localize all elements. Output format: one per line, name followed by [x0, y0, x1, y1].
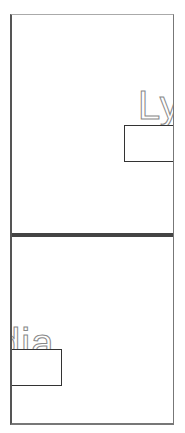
outer-frame: Ly dia — [10, 14, 174, 425]
bottom-panel: dia — [12, 237, 173, 424]
name-fragment-top: Ly — [138, 85, 173, 125]
bottom-name-box[interactable] — [12, 349, 62, 386]
top-panel: Ly — [12, 15, 173, 233]
top-name-box[interactable] — [124, 125, 173, 162]
